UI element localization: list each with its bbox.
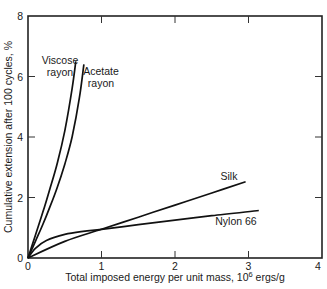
chart: 0123402468 ViscoserayonAcetaterayonSilkN… xyxy=(0,0,327,289)
y-tick-label: 6 xyxy=(17,71,23,83)
x-axis-label: Total imposed energy per unit mass, 106 … xyxy=(65,270,285,283)
series-line-acetate-rayon xyxy=(28,64,84,258)
series-label-viscose-rayon: Viscoserayon xyxy=(42,54,79,78)
series-line-viscose-rayon xyxy=(28,61,76,258)
series-lines xyxy=(28,61,259,258)
y-tick-label: 4 xyxy=(17,131,23,143)
y-tick-label: 8 xyxy=(17,10,23,22)
x-tick-label: 4 xyxy=(315,260,321,272)
y-tick-label: 0 xyxy=(17,252,23,264)
series-label-acetate-rayon: Acetaterayon xyxy=(83,65,119,89)
series-line-silk xyxy=(28,182,246,258)
x-tick-label: 0 xyxy=(25,260,31,272)
series-label-silk: Silk xyxy=(221,170,239,182)
y-axis-label: Cumulative extension after 100 cycles, % xyxy=(2,41,14,233)
y-tick-label: 2 xyxy=(17,192,23,204)
series-label-nylon-66: Nylon 66 xyxy=(215,215,257,227)
